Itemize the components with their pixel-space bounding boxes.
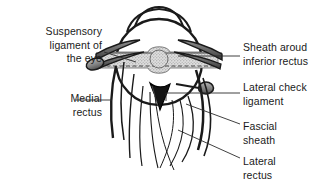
- label-medial-rectus: Medial rectus: [18, 92, 102, 119]
- leader-fascial-sheath: [186, 104, 240, 124]
- label-fascial-sheath: Fascial sheath: [243, 120, 313, 147]
- strand-medial-1: [111, 66, 116, 138]
- label-suspensory-ligament-of-the-eye: Suspensory ligament of the eye: [6, 25, 102, 66]
- figure-canvas: Suspensory ligament of the eye Medial re…: [0, 0, 319, 190]
- label-lateral-rectus: Lateral rectus: [243, 155, 313, 182]
- label-lateral-check-ligament: Lateral check ligament: [243, 81, 317, 108]
- label-sheath-around-inferior-rectus: Sheath aroud inferior rectus: [243, 41, 319, 68]
- strand-medial-6: [155, 96, 174, 170]
- sheath-central-bulge: [150, 50, 168, 68]
